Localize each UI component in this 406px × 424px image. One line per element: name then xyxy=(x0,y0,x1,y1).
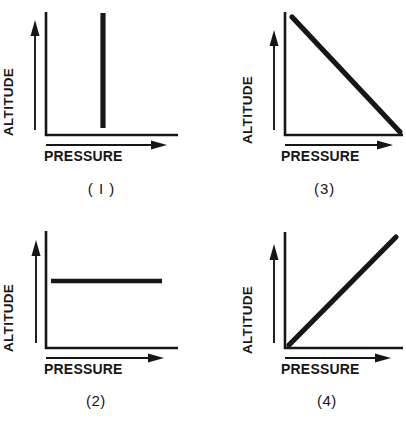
chart-panel-4-graphic xyxy=(203,212,406,424)
panel-caption: ( I ) xyxy=(0,180,203,197)
x-axis-label: PRESSURE xyxy=(281,148,360,164)
altitude-arrow-head xyxy=(32,240,41,256)
pressure-arrow-head xyxy=(148,354,164,363)
x-axis-label: PRESSURE xyxy=(281,361,360,377)
chart-panel-3-graphic xyxy=(203,0,406,212)
pressure-arrow-head xyxy=(151,141,167,150)
altitude-arrow-head xyxy=(31,20,40,36)
data-line-4 xyxy=(289,237,396,345)
pressure-arrow-head xyxy=(375,354,391,363)
chart-panel-4: ALTITUDE PRESSURE (4) xyxy=(203,212,406,424)
x-axis-label: PRESSURE xyxy=(44,148,123,164)
chart-panel-1: ALTITUDE PRESSURE ( I ) xyxy=(0,0,203,212)
y-axis-label: ALTITUDE xyxy=(240,286,255,354)
y-axis-label: ALTITUDE xyxy=(1,68,16,136)
panel-caption: (4) xyxy=(317,392,337,409)
y-axis-label: ALTITUDE xyxy=(1,284,16,352)
y-axis-label: ALTITUDE xyxy=(240,76,255,144)
chart-panel-2: ALTITUDE PRESSURE (2) xyxy=(0,212,203,424)
chart-panel-3: ALTITUDE PRESSURE (3) xyxy=(203,0,406,212)
panel-caption: (3) xyxy=(314,180,335,197)
figure-root: ALTITUDE PRESSURE ( I ) ALTITUDE PRESSUR… xyxy=(0,0,406,424)
pressure-arrow-head xyxy=(377,141,393,150)
panel-caption: (2) xyxy=(86,392,106,409)
data-line-3 xyxy=(292,17,400,132)
altitude-arrow-head xyxy=(270,244,279,260)
x-axis-label: PRESSURE xyxy=(44,361,123,377)
altitude-arrow-head xyxy=(270,30,279,46)
